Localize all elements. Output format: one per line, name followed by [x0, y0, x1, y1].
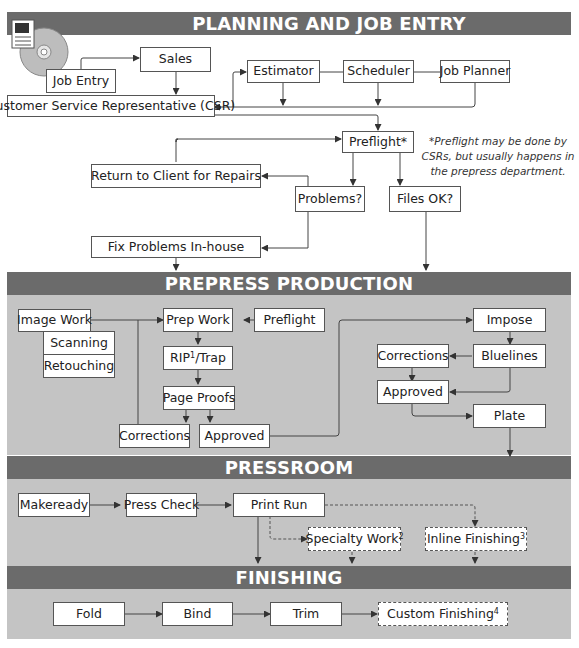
- rip-footnote: 1: [190, 352, 195, 360]
- node-custom-finishing[interactable]: Custom Finishing4: [378, 602, 508, 626]
- node-return-to-client[interactable]: Return to Client for Repairs: [91, 164, 261, 188]
- node-job-planner[interactable]: Job Planner: [440, 60, 510, 83]
- node-problems[interactable]: Problems?: [295, 186, 365, 212]
- node-press-check[interactable]: Press Check: [126, 493, 197, 517]
- node-impose[interactable]: Impose: [473, 308, 546, 332]
- custom-finishing-label: Custom Finishing: [387, 608, 494, 621]
- node-scanning[interactable]: Scanning: [43, 331, 115, 355]
- specialty-footnote: 2: [398, 533, 403, 541]
- node-corrections-right[interactable]: Corrections: [377, 344, 449, 368]
- section-header-prepress: PREPRESS PRODUCTION: [7, 272, 571, 295]
- node-approved-left[interactable]: Approved: [199, 424, 270, 448]
- node-sales[interactable]: Sales: [140, 47, 211, 72]
- node-retouching[interactable]: Retouching: [43, 354, 115, 378]
- section-title-pressroom: PRESSROOM: [7, 456, 571, 479]
- node-preflight-prepress[interactable]: Preflight: [254, 308, 325, 332]
- custom-footnote: 4: [494, 608, 499, 616]
- section-title-prepress: PREPRESS PRODUCTION: [7, 272, 571, 295]
- node-preflight-planning[interactable]: Preflight*: [342, 131, 414, 153]
- node-specialty-work[interactable]: Specialty Work2: [308, 527, 401, 551]
- node-print-run[interactable]: Print Run: [233, 493, 325, 517]
- node-makeready[interactable]: Makeready: [18, 493, 90, 517]
- node-rip-trap[interactable]: RIP1/Trap: [163, 346, 233, 370]
- node-files-ok[interactable]: Files OK?: [389, 186, 461, 212]
- node-plate[interactable]: Plate: [473, 404, 546, 428]
- section-title-planning: PLANNING AND JOB ENTRY: [7, 12, 571, 35]
- inline-footnote: 3: [520, 533, 525, 541]
- specialty-work-label: Specialty Work: [305, 533, 398, 546]
- node-bind[interactable]: Bind: [162, 602, 233, 626]
- section-title-finishing: FINISHING: [7, 566, 571, 589]
- node-trim[interactable]: Trim: [270, 602, 342, 626]
- section-header-finishing: FINISHING: [7, 566, 571, 589]
- node-prep-work[interactable]: Prep Work: [163, 308, 233, 332]
- node-scheduler[interactable]: Scheduler: [343, 60, 414, 83]
- node-bluelines[interactable]: Bluelines: [473, 344, 546, 368]
- node-fold[interactable]: Fold: [53, 602, 125, 626]
- section-header-planning: PLANNING AND JOB ENTRY: [7, 12, 571, 35]
- preflight-footnote: *Preflight may be done by CSRs, but usua…: [418, 134, 578, 179]
- node-estimator[interactable]: Estimator: [247, 60, 320, 83]
- trap-label: /Trap: [195, 352, 226, 365]
- inline-finishing-label: Inline Finishing: [427, 533, 520, 546]
- node-page-proofs[interactable]: Page Proofs: [163, 386, 235, 410]
- node-corrections-left[interactable]: Corrections: [119, 424, 190, 448]
- node-fix-in-house[interactable]: Fix Problems In-house: [91, 236, 261, 258]
- section-header-pressroom: PRESSROOM: [7, 456, 571, 479]
- node-inline-finishing[interactable]: Inline Finishing3: [425, 527, 527, 551]
- node-csr[interactable]: Customer Service Representative (CSR): [7, 95, 215, 117]
- node-image-work[interactable]: Image Work: [18, 309, 91, 332]
- node-job-entry[interactable]: Job Entry: [46, 69, 116, 93]
- rip-label: RIP: [170, 352, 190, 365]
- node-approved-right[interactable]: Approved: [377, 380, 449, 404]
